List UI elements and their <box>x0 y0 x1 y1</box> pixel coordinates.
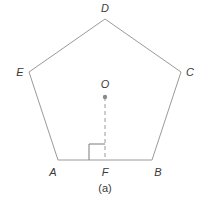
label-o: O <box>101 78 110 90</box>
label-d: D <box>101 2 109 14</box>
figure-caption: (a) <box>98 182 111 194</box>
center-point-o <box>103 95 107 99</box>
right-angle-marker <box>89 144 105 160</box>
pentagon-diagram: D E C O A F B (a) <box>0 0 205 202</box>
label-f: F <box>102 166 110 178</box>
label-c: C <box>186 66 194 78</box>
label-a: A <box>48 166 56 178</box>
label-e: E <box>16 66 24 78</box>
label-b: B <box>154 166 161 178</box>
